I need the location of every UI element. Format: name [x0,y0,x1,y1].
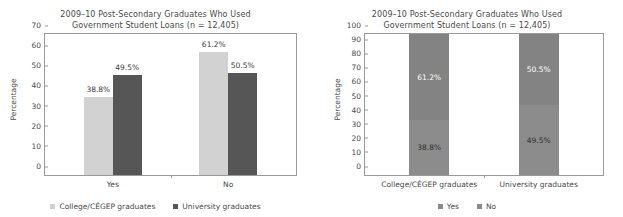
y-tick-label: 30 [31,101,45,110]
y-tick-label: 70 [351,63,365,72]
stack-segment-yes[interactable]: 49.5% [519,105,559,175]
bar-value-label: 38.8% [86,85,110,94]
y-tick-label: 100 [347,21,365,30]
y-tick-label: 20 [31,121,45,130]
x-axis-category-label: College/CÉGEP graduates [381,180,477,189]
legend-swatch-yes-icon [438,204,443,209]
legend-item-no[interactable]: No [477,202,496,211]
plot-area-left: Yes38.8%49.5%No61.2%50.5% 01020304050607… [44,33,297,176]
bar[interactable]: 50.5% [228,73,257,175]
figure-container: 2009–10 Post-Secondary Graduates Who Use… [0,0,623,217]
stacked-bar-panel: 2009–10 Post-Secondary Graduates Who Use… [311,0,623,217]
bar-group: 38.8%49.5% [84,34,142,175]
x-axis-tick [484,175,485,178]
plot-area-right: College/CÉGEP graduates61.2%38.8%Univers… [364,33,604,176]
legend-swatch-no-icon [477,204,482,209]
y-tick-label: 90 [351,35,365,44]
x-axis-category-label: Yes [107,180,119,189]
stacked-bar: 61.2%38.8% [409,34,449,175]
y-tick-label: 70 [31,21,45,30]
x-axis-category-label: No [223,180,233,189]
stack-segment-no[interactable]: 61.2% [409,34,449,120]
legend-label-no: No [486,202,496,211]
y-tick-label: 30 [351,119,365,128]
legend-item-college[interactable]: College/CÉGEP graduates [50,202,155,211]
legend-item-yes[interactable]: Yes [438,202,459,211]
bar[interactable]: 38.8% [84,97,113,175]
y-tick-label: 10 [351,147,365,156]
y-axis-label-left: Percentage [9,78,18,120]
bar-value-label: 49.5% [115,63,139,72]
x-axis-tick [171,175,172,178]
stack-segment-value-label: 50.5% [527,65,551,74]
bar[interactable]: 49.5% [113,75,142,175]
y-axis-label-right: Percentage [333,78,342,120]
y-tick-label: 40 [351,105,365,114]
grouped-bar-panel: 2009–10 Post-Secondary Graduates Who Use… [0,0,311,217]
chart-title-left-line1-text: 2009–10 Post-Secondary Graduates Who Use… [60,10,250,19]
bar-group: 61.2%50.5% [199,34,257,175]
y-tick-label: 80 [351,49,365,58]
y-tick-label: 60 [351,77,365,86]
y-tick-label: 0 [356,162,365,171]
stacked-bar: 50.5%49.5% [519,34,559,175]
legend-left: College/CÉGEP graduates University gradu… [0,202,311,211]
bars-right: College/CÉGEP graduates61.2%38.8%Univers… [365,34,603,175]
chart-title-right-line1: 2009–10 Post-Secondary Graduates Who Use… [372,10,562,19]
y-tick-label: 50 [31,61,45,70]
legend-label-yes: Yes [447,202,459,211]
chart-title-left: 2009–10 Post-Secondary Graduates Who Use… [0,9,311,31]
bar-value-label: 50.5% [231,61,255,70]
y-tick-label: 50 [351,91,365,100]
legend-swatch-college-icon [50,204,55,209]
y-tick-label: 60 [31,41,45,50]
legend-label-college: College/CÉGEP graduates [59,202,155,211]
y-tick-label: 10 [31,141,45,150]
legend-right: Yes No [311,202,623,211]
legend-label-university: University graduates [182,202,260,211]
y-tick-label: 0 [36,162,45,171]
y-tick-label: 20 [351,133,365,142]
stack-segment-value-label: 61.2% [417,73,441,82]
stack-segment-value-label: 38.8% [417,143,441,152]
stack-segment-value-label: 49.5% [527,136,551,145]
legend-swatch-university-icon [173,204,178,209]
legend-item-university[interactable]: University graduates [173,202,260,211]
bar[interactable]: 61.2% [199,52,228,175]
stack-segment-yes[interactable]: 38.8% [409,120,449,175]
bars-left: Yes38.8%49.5%No61.2%50.5% [45,34,296,175]
bar-value-label: 61.2% [202,40,226,49]
y-tick-label: 40 [31,81,45,90]
stack-segment-no[interactable]: 50.5% [519,34,559,105]
x-axis-category-label: University graduates [500,180,578,189]
